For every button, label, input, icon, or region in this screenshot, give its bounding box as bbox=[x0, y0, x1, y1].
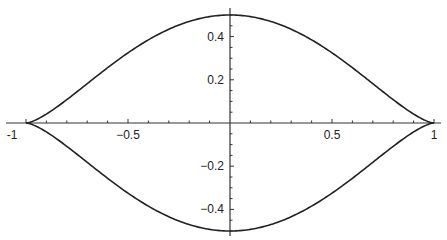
y-tick-label: −0.4 bbox=[200, 202, 224, 216]
x-tick-label: 0.5 bbox=[324, 128, 341, 142]
y-tick-label: 0.2 bbox=[207, 73, 224, 87]
x-tick-label: −0.5 bbox=[116, 128, 140, 142]
y-tick-label: 0.4 bbox=[207, 30, 224, 44]
x-tick-label: 1 bbox=[431, 128, 438, 142]
x-tick-label: -1 bbox=[7, 128, 18, 142]
y-tick-label: −0.2 bbox=[200, 159, 224, 173]
chart-plot: -1−0.50.510.40.2−0.2−0.4 bbox=[0, 0, 447, 240]
